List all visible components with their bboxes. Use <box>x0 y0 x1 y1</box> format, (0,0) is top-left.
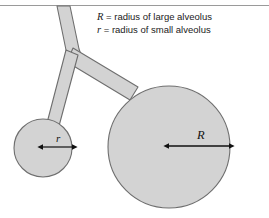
legend-line-small: r = radius of small alveolus <box>97 24 212 37</box>
small-alveolus-circle <box>14 119 72 177</box>
legend-text-large: = radius of large alveolus <box>103 11 212 22</box>
legend-line-large: R = radius of large alveolus <box>97 11 212 24</box>
legend-text-small: = radius of small alveolus <box>101 24 211 35</box>
figure-container: R = radius of large alveolus r = radius … <box>0 0 269 218</box>
branch-to-small-alveolus-tube <box>47 50 78 126</box>
large-radius-label: R <box>197 128 205 143</box>
large-alveolus-circle <box>108 86 230 208</box>
legend-block: R = radius of large alveolus r = radius … <box>97 11 212 36</box>
small-radius-label: r <box>56 132 60 144</box>
